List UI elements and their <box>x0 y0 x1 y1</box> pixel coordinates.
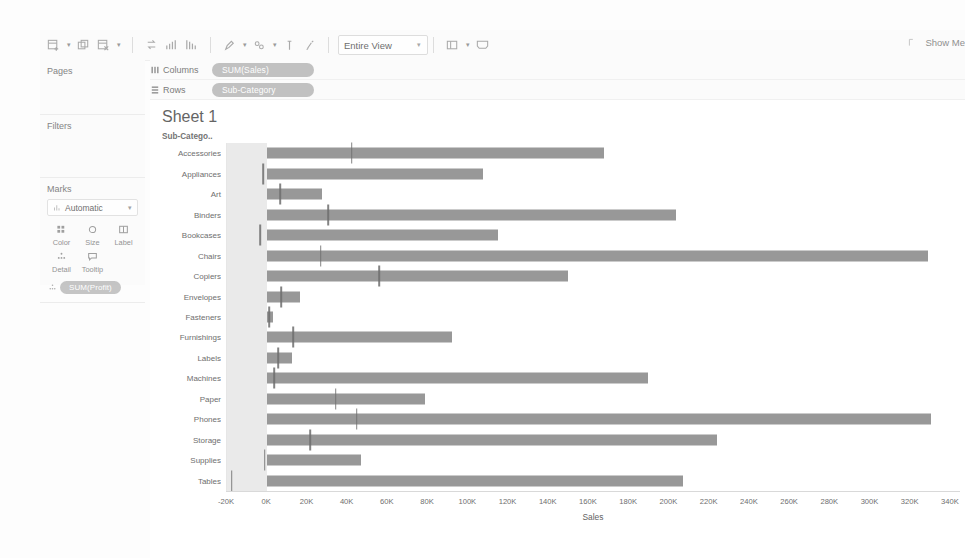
chevron-down-icon: ▾ <box>126 204 133 212</box>
y-axis-label[interactable]: Art <box>211 190 221 199</box>
y-axis-labels: AccessoriesAppliancesArtBindersBookcases… <box>160 143 225 491</box>
y-axis-label[interactable]: Paper <box>200 394 221 403</box>
chart-panel[interactable] <box>226 143 961 491</box>
y-axis-label[interactable]: Binders <box>194 210 221 219</box>
show-hide-cards-icon[interactable] <box>444 37 461 54</box>
y-axis-label[interactable]: Appliances <box>182 169 221 178</box>
show-me-label: Show Me <box>925 37 965 48</box>
bar-mark[interactable] <box>267 475 683 486</box>
new-worksheet-icon[interactable] <box>45 37 62 54</box>
swap-rows-columns-icon[interactable] <box>143 37 160 54</box>
bar-mark[interactable] <box>267 455 361 466</box>
bar-mark[interactable] <box>267 373 648 384</box>
bar-mark[interactable] <box>267 148 604 159</box>
chevron-down-icon[interactable]: ▾ <box>271 41 278 49</box>
left-panel: Pages Filters Marks Automatic ▾ <box>40 60 145 285</box>
bar-mark[interactable] <box>267 393 425 404</box>
bar-mark[interactable] <box>267 414 931 425</box>
toolbar-group-marks: ▾ ▾ <box>216 37 323 54</box>
x-axis-tick: 200K <box>660 497 678 506</box>
y-axis-label[interactable]: Chairs <box>198 251 221 260</box>
y-axis-label[interactable]: Bookcases <box>182 231 221 240</box>
viz-area: Sheet 1 Sub-Catego.. AccessoriesApplianc… <box>150 100 965 558</box>
rows-shelf[interactable]: Rows Sub-Category <box>150 80 965 100</box>
y-axis-label[interactable]: Supplies <box>190 456 221 465</box>
bar-mark[interactable] <box>267 230 498 241</box>
marks-pill-sum-profit[interactable]: SUM(Profit) <box>60 281 121 294</box>
marks-label-button[interactable]: Label <box>109 223 138 247</box>
profit-reference-line <box>280 184 282 205</box>
x-axis-tick: 80K <box>420 497 434 506</box>
group-members-icon[interactable] <box>251 37 268 54</box>
mark-type-select[interactable]: Automatic ▾ <box>47 199 138 216</box>
profit-reference-line <box>280 286 282 307</box>
show-me-button[interactable]: Show Me <box>904 34 965 51</box>
profit-reference-line <box>356 409 358 430</box>
marks-label-label: Label <box>114 238 132 247</box>
duplicate-sheet-icon[interactable] <box>75 37 92 54</box>
y-axis-label[interactable]: Phones <box>194 415 221 424</box>
sort-descending-icon[interactable] <box>183 37 200 54</box>
profit-reference-line <box>278 347 280 368</box>
page-title: Sheet 1 <box>162 108 217 126</box>
clear-sheet-icon[interactable] <box>95 37 112 54</box>
pill-sub-category[interactable]: Sub-Category <box>212 83 314 97</box>
y-axis-label[interactable]: Envelopes <box>184 292 221 301</box>
marks-title: Marks <box>47 184 138 194</box>
y-axis-label[interactable]: Tables <box>198 476 221 485</box>
bar-mark[interactable] <box>267 189 322 200</box>
profit-reference-line <box>264 450 266 471</box>
show-me-icon <box>904 34 921 51</box>
chevron-down-icon[interactable]: ▾ <box>65 41 72 49</box>
toolbar-divider <box>328 37 329 53</box>
row-field-header: Sub-Catego.. <box>162 132 213 141</box>
color-icon <box>56 223 67 236</box>
bar-mark[interactable] <box>267 352 292 363</box>
chevron-down-icon[interactable]: ▾ <box>115 41 122 49</box>
profit-reference-line <box>320 245 322 266</box>
show-mark-labels-icon[interactable] <box>281 37 298 54</box>
filters-card[interactable]: Filters <box>40 115 145 178</box>
marks-tooltip-label: Tooltip <box>82 265 103 274</box>
fit-select-value: Entire View <box>344 40 392 51</box>
x-axis-tick: -20K <box>218 497 234 506</box>
bar-mark[interactable] <box>267 271 568 282</box>
chevron-down-icon[interactable]: ▾ <box>464 41 471 49</box>
y-axis-label[interactable]: Machines <box>187 374 221 383</box>
pages-card[interactable]: Pages <box>40 60 145 115</box>
x-axis-tick: 100K <box>458 497 476 506</box>
profit-reference-line <box>351 143 353 164</box>
y-axis-label[interactable]: Furnishings <box>180 333 221 342</box>
x-axis-tick: 240K <box>740 497 758 506</box>
marks-detail-button[interactable]: Detail <box>47 250 76 274</box>
bar-mark[interactable] <box>267 332 451 343</box>
chevron-down-icon[interactable]: ▾ <box>241 41 248 49</box>
x-axis: Sales -20K0K20K40K60K80K100K120K140K160K… <box>226 491 960 534</box>
x-axis-tick: 140K <box>539 497 557 506</box>
pill-sum-sales[interactable]: SUM(Sales) <box>212 63 314 77</box>
profit-reference-line <box>327 204 329 225</box>
marks-tooltip-button[interactable]: Tooltip <box>78 250 107 274</box>
fit-select[interactable]: Entire View ▾ <box>338 35 428 55</box>
bar-mark[interactable] <box>267 434 717 445</box>
detail-icon <box>47 283 57 293</box>
columns-shelf[interactable]: Columns SUM(Sales) <box>150 60 965 80</box>
bar-mark[interactable] <box>267 291 300 302</box>
y-axis-label[interactable]: Storage <box>193 435 221 444</box>
bar-mark[interactable] <box>267 250 927 261</box>
fix-axes-icon[interactable] <box>301 37 318 54</box>
bar-mark[interactable] <box>267 168 483 179</box>
profit-reference-line <box>309 429 311 450</box>
presentation-mode-icon[interactable] <box>474 37 491 54</box>
marks-color-button[interactable]: Color <box>47 223 76 247</box>
bar-mark-icon <box>52 203 62 213</box>
y-axis-label[interactable]: Accessories <box>178 149 221 158</box>
size-icon <box>87 223 98 236</box>
highlight-icon[interactable] <box>221 37 238 54</box>
sort-ascending-icon[interactable] <box>163 37 180 54</box>
y-axis-label[interactable]: Fasteners <box>185 313 221 322</box>
marks-size-button[interactable]: Size <box>78 223 107 247</box>
profit-reference-line <box>378 266 380 287</box>
y-axis-label[interactable]: Copiers <box>193 272 221 281</box>
y-axis-label[interactable]: Labels <box>197 353 221 362</box>
